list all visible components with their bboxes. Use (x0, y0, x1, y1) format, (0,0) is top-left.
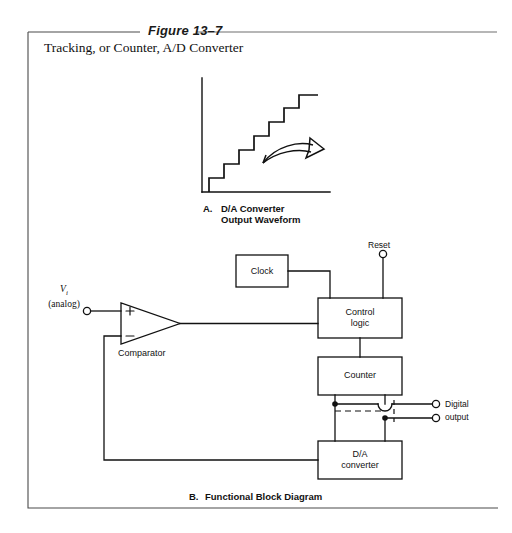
panel-b-caption-prefix: B. (189, 491, 199, 503)
clock-block-label: Clock (236, 266, 288, 277)
junction-dot-upper (332, 401, 338, 407)
input-qualifier: (analog) (42, 299, 86, 310)
panel-a-caption-line2: Output Waveform (221, 214, 300, 226)
panel-a-caption-prefix: A. (203, 203, 213, 215)
digital-output-label-line2: output (445, 412, 469, 423)
da-converter-label-line2: converter (318, 460, 402, 471)
counter-block-label: Counter (318, 370, 402, 381)
wire-hop-arc (378, 404, 392, 411)
panel-b-caption-line1: Functional Block Diagram (205, 491, 322, 503)
figure-number-label: Figure 13–7 (148, 23, 222, 38)
terminal-reset (379, 250, 386, 257)
direction-arrow-icon (263, 138, 324, 163)
wire-clock-to-control (288, 271, 330, 298)
terminal-digital-output-lower (432, 414, 439, 421)
figure-container: Figure 13–7 Tracking, or Counter, A/D Co… (0, 0, 512, 533)
digital-output-label-line1: Digital (445, 399, 469, 410)
control-logic-label-line1: Control (318, 307, 402, 318)
terminal-digital-output-upper (432, 400, 439, 407)
figure-title: Tracking, or Counter, A/D Converter (44, 40, 243, 56)
block-outlines (236, 255, 402, 479)
reset-label: Reset (368, 240, 390, 251)
junction-dot-lower (382, 415, 388, 421)
control-logic-label-line2: logic (318, 318, 402, 329)
comparator-label: Comparator (118, 348, 166, 359)
input-signal-label: Vi (analog) (42, 284, 86, 310)
input-subscript: i (66, 289, 68, 297)
da-converter-label-line1: D/A (318, 449, 402, 460)
